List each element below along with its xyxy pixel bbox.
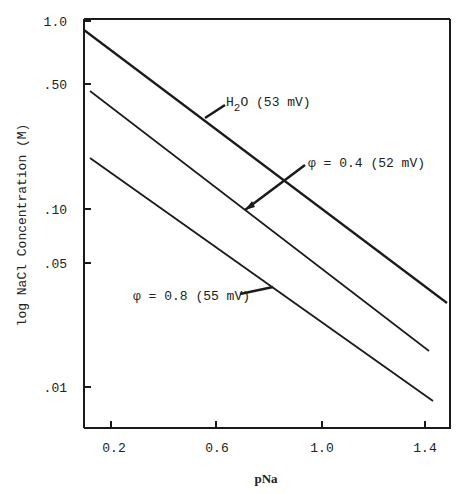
chart: 1.0 .50 .10 .05 .01 0.2 0.6 1.0 1.4 pNa … — [0, 0, 466, 494]
x-tick-label: 0.2 — [102, 441, 125, 456]
y-tick-label: .05 — [44, 257, 67, 272]
x-tick-labels: 0.2 0.6 1.0 1.4 — [102, 441, 437, 456]
x-tick-label: 0.6 — [205, 441, 228, 456]
series-line-phi-0.4 — [90, 91, 429, 351]
y-tick-label: 1.0 — [44, 15, 67, 30]
x-tick-label: 1.4 — [413, 441, 437, 456]
leader-phi-0.4 — [245, 165, 305, 210]
x-tick-label: 1.0 — [310, 441, 333, 456]
annotation-phi-0.8: φ = 0.8 (55 mV) — [133, 289, 250, 304]
y-tick-label: .01 — [44, 381, 68, 396]
x-ticks — [111, 421, 425, 428]
annotation-phi-0.4: φ = 0.4 (52 mV) — [308, 156, 425, 171]
y-ticks — [84, 21, 91, 387]
x-axis-title: pNa — [254, 471, 278, 486]
y-axis-title: log NaCl Concentration (M) — [15, 124, 30, 327]
plot-frame — [84, 19, 451, 428]
y-tick-label: .10 — [44, 203, 67, 218]
leader-h2o — [205, 105, 225, 118]
y-tick-label: .50 — [44, 78, 67, 93]
y-tick-labels: 1.0 .50 .10 .05 .01 — [44, 15, 68, 396]
series-lines — [84, 30, 447, 401]
series-line-phi-0.8 — [90, 158, 433, 401]
annotation-h2o: H2O (53 mV) — [226, 95, 311, 114]
